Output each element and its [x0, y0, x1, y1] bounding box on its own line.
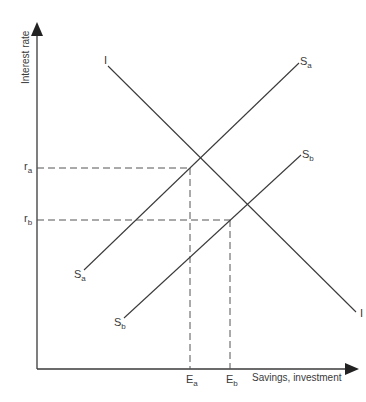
ra-label: ra	[24, 160, 33, 175]
Eb-label: Eb	[226, 373, 238, 388]
Sa-label-top: Sa	[300, 55, 312, 70]
x-axis-arrow-icon	[345, 363, 359, 375]
I-label-bottom: I	[360, 307, 363, 319]
dashed-guides	[37, 168, 230, 369]
y-axis-title: Interest rate	[20, 30, 31, 84]
rb-label: rb	[24, 212, 33, 227]
x-axis-title: Savings, investment	[252, 372, 342, 383]
savings-investment-diagram: I I Sa Sa Sb Sb ra rb Ea Eb Savings, inv…	[0, 0, 366, 402]
savings-curve-b	[124, 155, 301, 318]
savings-curve-a	[84, 63, 299, 270]
Sb-label-top: Sb	[302, 148, 314, 163]
Ea-label: Ea	[186, 373, 198, 388]
curves	[84, 63, 356, 318]
investment-curve	[108, 66, 356, 312]
y-axis-arrow-icon	[31, 22, 43, 36]
I-label-top: I	[104, 54, 107, 66]
axes	[31, 22, 359, 375]
